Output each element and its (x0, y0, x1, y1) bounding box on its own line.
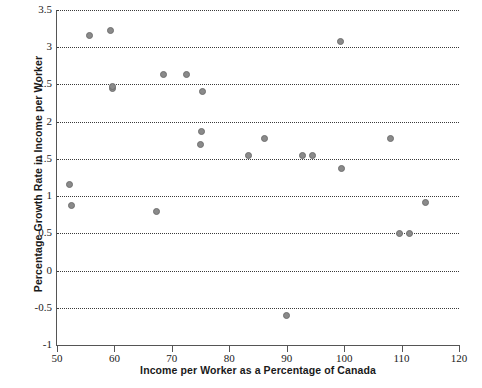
x-tick-label: 100 (324, 352, 364, 364)
x-tick-label: 90 (267, 352, 307, 364)
x-tick-label: 70 (152, 352, 192, 364)
scatter-chart: Percentage Growth Rate in Income per Wor… (0, 0, 482, 388)
x-tick-label: 120 (439, 352, 479, 364)
x-axis-tick-labels: 5060708090100110120 (0, 0, 482, 388)
x-tick-label: 80 (209, 352, 249, 364)
x-tick-label: 50 (37, 352, 77, 364)
x-axis-title: Income per Worker as a Percentage of Can… (57, 364, 459, 376)
x-tick-label: 110 (382, 352, 422, 364)
x-tick-label: 60 (94, 352, 134, 364)
